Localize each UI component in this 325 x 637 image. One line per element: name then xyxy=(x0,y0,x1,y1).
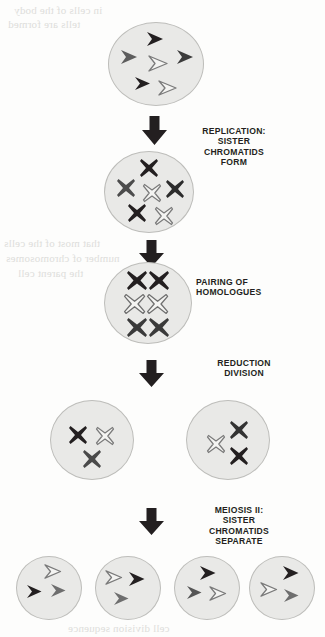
chromosome-gray xyxy=(112,591,132,607)
chromosome-white xyxy=(259,581,280,598)
ghost-text-line: that most of the cells xyxy=(4,237,100,249)
chromosome-white xyxy=(206,434,226,454)
ghost-text-line: in cells of the body xyxy=(14,4,102,16)
ghost-text-line: the parent cell xyxy=(18,267,83,279)
chromosome-dark xyxy=(119,49,141,66)
chromosome-white xyxy=(43,563,64,580)
chromosome-dark xyxy=(25,584,45,600)
ghost-text-line: cell division sequence xyxy=(68,622,170,634)
cell-parent xyxy=(108,22,204,106)
cell-replicated xyxy=(104,151,194,233)
meiosis-diagram: in cells of the body tells are formed th… xyxy=(0,0,325,637)
chromosome-dark xyxy=(229,420,249,440)
chromosome-gray xyxy=(282,588,302,604)
chromosome-dark xyxy=(127,571,148,588)
cell-reduction-right xyxy=(186,400,270,480)
chromosome-dark xyxy=(82,449,102,469)
label-replication: REPLICATION: SISTER CHROMATIDS FORM xyxy=(186,126,282,168)
chromosome-gray xyxy=(185,585,205,601)
arrow-down-icon xyxy=(141,116,168,150)
chromosome-dark xyxy=(198,565,219,582)
cell-reduction-left xyxy=(50,400,134,480)
ghost-text-line: tells are formed xyxy=(8,18,80,30)
chromosome-white xyxy=(142,183,162,203)
cell-gamete-2 xyxy=(95,556,161,620)
chromosome-white xyxy=(147,54,171,73)
chromosome-white xyxy=(95,426,115,446)
chromosome-white xyxy=(157,79,180,97)
arrow-down-icon xyxy=(138,508,165,540)
label-pairing: PAIRING OF HOMOLOGUES xyxy=(196,277,306,298)
label-meiosis-two: MEIOSIS II: SISTER CHROMATIDS SEPARATE xyxy=(189,505,289,547)
ghost-text-line: number of chromosomes xyxy=(6,252,120,264)
cell-paired xyxy=(104,262,192,344)
chromosome-pair-white xyxy=(123,293,170,315)
chromosome-dark xyxy=(145,31,167,48)
cell-gamete-3 xyxy=(174,556,240,620)
cell-gamete-1 xyxy=(16,556,82,620)
arrow-down-icon xyxy=(138,360,165,392)
chromosome-pair-dark xyxy=(126,317,170,338)
chromosome-dark xyxy=(133,76,154,92)
chromosome-dark xyxy=(175,49,197,66)
chromosome-gray xyxy=(49,583,69,599)
chromosome-dark xyxy=(281,565,302,582)
chromosome-dark xyxy=(127,203,147,223)
cell-gamete-4 xyxy=(249,556,315,620)
chromosome-dark xyxy=(68,425,88,445)
label-reduction-division: REDUCTION DIVISION xyxy=(194,358,294,379)
chromosome-white xyxy=(154,206,174,226)
chromosome-white xyxy=(208,585,229,602)
chromosome-white xyxy=(104,569,125,586)
chromosome-dark xyxy=(116,178,136,198)
chromosome-pair-dark xyxy=(126,270,170,291)
chromosome-dark xyxy=(139,158,159,178)
chromosome-dark xyxy=(229,446,249,466)
chromosome-dark xyxy=(165,179,185,199)
